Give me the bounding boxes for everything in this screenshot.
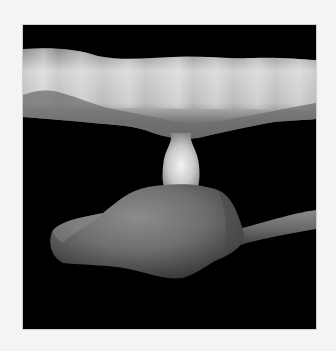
upper-band [23, 48, 316, 139]
neck [163, 133, 200, 187]
lower-body [50, 184, 244, 278]
right-process [233, 210, 316, 247]
rendered-image-panel [23, 25, 316, 329]
surface-rendering [23, 25, 316, 329]
